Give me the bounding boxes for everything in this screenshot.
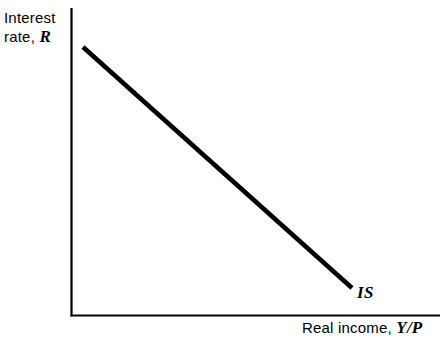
- y-axis-label-line2-plain: rate,: [4, 28, 39, 45]
- x-axis-label-symbol: Y/P: [396, 318, 422, 337]
- is-curve-label: IS: [357, 283, 374, 303]
- x-axis-label: Real income, Y/P: [302, 318, 422, 337]
- y-axis-label-symbol: R: [39, 27, 51, 46]
- y-axis-label: Interest rate, R: [4, 8, 56, 46]
- plot-area: [0, 0, 440, 337]
- x-axis-label-plain: Real income,: [302, 319, 396, 336]
- y-axis-label-line1: Interest: [4, 9, 56, 26]
- is-curve-figure: Interest rate, R Real income, Y/P IS: [0, 0, 440, 337]
